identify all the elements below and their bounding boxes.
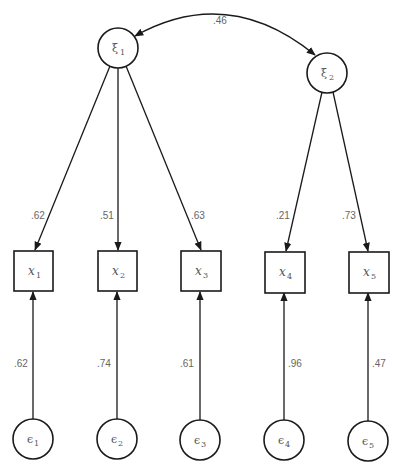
latent-symbol: ξ bbox=[112, 42, 118, 55]
error-label-e5: .47 bbox=[372, 358, 386, 369]
loading-label-x5: .73 bbox=[342, 210, 356, 221]
svg-text:x: x bbox=[363, 265, 370, 279]
loading-label-x4: .21 bbox=[276, 210, 290, 221]
error-node-e4: ϵ 4 bbox=[264, 420, 304, 460]
path-diagram: .46 .62 .51 .63 .21 .73 .62 .74 .61 .96 … bbox=[0, 0, 400, 476]
error-node-e1: ϵ 1 bbox=[13, 419, 53, 459]
loading-label-x3: .63 bbox=[191, 210, 205, 221]
latent-subscript: 2 bbox=[329, 73, 334, 82]
svg-text:3: 3 bbox=[201, 440, 206, 449]
svg-text:1: 1 bbox=[36, 271, 41, 280]
error-node-e5: ϵ 5 bbox=[348, 421, 388, 461]
svg-text:ϵ: ϵ bbox=[111, 433, 117, 446]
observed-node-x1: x 1 bbox=[14, 251, 53, 291]
svg-text:x: x bbox=[279, 265, 286, 279]
svg-text:x: x bbox=[28, 264, 35, 278]
loading-xi1-x1 bbox=[35, 66, 110, 250]
svg-text:2: 2 bbox=[120, 271, 125, 280]
svg-text:x: x bbox=[112, 264, 119, 278]
error-label-e4: .96 bbox=[288, 358, 302, 369]
error-node-e3: ϵ 3 bbox=[180, 420, 220, 460]
svg-text:2: 2 bbox=[118, 439, 123, 448]
covariance-label: .46 bbox=[213, 15, 227, 26]
svg-text:ϵ: ϵ bbox=[194, 434, 200, 447]
loading-xi1-x3 bbox=[126, 66, 201, 250]
observed-node-x3: x 3 bbox=[181, 251, 221, 291]
svg-text:ϵ: ϵ bbox=[27, 433, 33, 446]
error-label-e2: .74 bbox=[97, 358, 111, 369]
latent-node-xi2: ξ 2 bbox=[307, 53, 347, 93]
loading-xi2-x5 bbox=[333, 92, 368, 251]
observed-node-x2: x 2 bbox=[98, 251, 137, 291]
error-label-e1: .62 bbox=[14, 358, 28, 369]
svg-text:4: 4 bbox=[285, 440, 290, 449]
observed-node-x5: x 5 bbox=[349, 252, 389, 293]
svg-text:ϵ: ϵ bbox=[278, 434, 284, 447]
svg-text:3: 3 bbox=[203, 271, 208, 280]
loading-label-x2: .51 bbox=[100, 210, 114, 221]
loading-xi2-x4 bbox=[286, 92, 322, 251]
latent-node-xi1: ξ 1 bbox=[98, 28, 138, 68]
error-node-e2: ϵ 2 bbox=[97, 419, 137, 459]
svg-text:5: 5 bbox=[369, 441, 374, 450]
svg-text:x: x bbox=[195, 264, 202, 278]
observed-node-x4: x 4 bbox=[265, 252, 305, 293]
svg-text:5: 5 bbox=[371, 272, 376, 281]
latent-subscript: 1 bbox=[120, 48, 125, 57]
loading-label-x1: .62 bbox=[31, 210, 45, 221]
error-label-e3: .61 bbox=[180, 358, 194, 369]
svg-text:4: 4 bbox=[287, 272, 292, 281]
latent-symbol: ξ bbox=[321, 67, 327, 80]
svg-text:ϵ: ϵ bbox=[362, 435, 368, 448]
svg-text:1: 1 bbox=[34, 439, 39, 448]
